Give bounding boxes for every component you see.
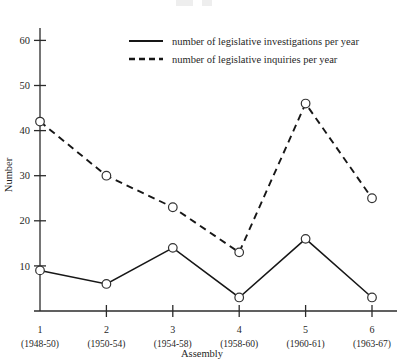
data-point-investigations: [102, 280, 111, 289]
x-range-label: (1958-60): [220, 339, 258, 350]
data-point-investigations: [235, 293, 244, 302]
series-line-investigations: [40, 239, 372, 298]
data-point-inquiries: [102, 171, 111, 180]
series-line-inquiries: [40, 104, 372, 253]
x-category-label: 1: [38, 324, 43, 335]
chart-container: 102030405060 123456 (1948-50)(1950-54)(1…: [0, 0, 405, 363]
y-tick-label: 30: [20, 170, 31, 181]
y-axis-tick-labels: 102030405060: [20, 35, 31, 272]
legend-label-inquiries: number of legislative inquiries per year: [172, 54, 338, 65]
data-point-inquiries: [169, 203, 178, 212]
y-tick-label: 10: [20, 261, 31, 272]
x-range-label: (1963-67): [353, 339, 391, 350]
legend-label-investigations: number of legislative investigations per…: [172, 36, 359, 47]
x-category-label: 6: [370, 324, 375, 335]
data-point-inquiries: [235, 248, 244, 257]
series-markers-inquiries: [36, 99, 377, 256]
y-tick-label: 20: [20, 215, 31, 226]
data-point-investigations: [169, 244, 178, 253]
y-tick-label: 50: [20, 80, 31, 91]
x-category-label: 3: [170, 324, 175, 335]
data-point-inquiries: [368, 194, 377, 203]
line-chart: 102030405060 123456 (1948-50)(1950-54)(1…: [0, 0, 405, 363]
x-axis-title: Assembly: [181, 348, 224, 359]
chart-legend: number of legislative investigations per…: [129, 36, 359, 65]
x-range-label: (1950-54): [87, 339, 125, 350]
y-tick-label: 60: [20, 35, 31, 46]
y-axis-title: Number: [3, 157, 14, 192]
y-tick-label: 40: [20, 125, 31, 136]
data-point-investigations: [36, 266, 45, 275]
data-point-investigations: [368, 293, 377, 302]
data-point-investigations: [301, 235, 310, 244]
x-range-label: (1948-50): [21, 339, 59, 350]
x-category-label: 5: [303, 324, 308, 335]
x-category-label: 4: [237, 324, 242, 335]
x-range-label: (1960-61): [287, 339, 325, 350]
data-point-inquiries: [36, 117, 45, 126]
series-markers-investigations: [36, 235, 377, 302]
x-axis-category-labels: 123456: [38, 324, 375, 335]
data-point-inquiries: [301, 99, 310, 108]
x-category-label: 2: [104, 324, 109, 335]
